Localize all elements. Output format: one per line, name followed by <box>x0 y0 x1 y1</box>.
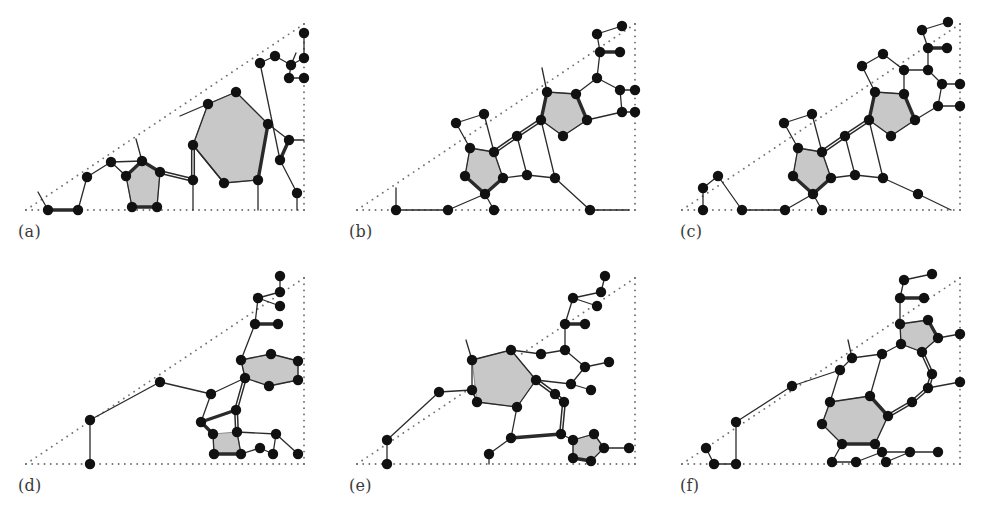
graph-edge-thin <box>484 114 494 152</box>
domain-right-edge-dot <box>959 48 961 50</box>
graph-vertex <box>489 205 499 215</box>
graph-vertex <box>592 73 602 83</box>
graph-vertex <box>253 175 263 185</box>
domain-baseline-dot <box>560 463 562 465</box>
graph-edge-thin <box>555 178 590 210</box>
domain-hypotenuse-dot <box>815 373 817 375</box>
domain-right-edge-dot <box>303 370 305 372</box>
domain-right-edge-dot <box>959 438 961 440</box>
domain-hypotenuse-dot <box>423 164 425 166</box>
graph-vertex <box>460 171 470 181</box>
graph-vertex <box>857 61 867 71</box>
graph-vertex <box>617 107 627 117</box>
domain-hypotenuse-dot <box>262 305 264 307</box>
graph-vertex <box>604 357 614 367</box>
domain-baseline-dot <box>798 463 800 465</box>
domain-right-edge-dot <box>634 141 636 143</box>
domain-baseline-dot <box>842 209 844 211</box>
domain-baseline-dot <box>947 463 949 465</box>
domain-right-edge-dot <box>303 457 305 459</box>
domain-hypotenuse-dot <box>387 188 389 190</box>
domain-baseline-dot <box>223 463 225 465</box>
graph-vertex <box>568 453 578 463</box>
domain-hypotenuse-dot <box>588 54 590 56</box>
domain-right-edge-dot <box>303 184 305 186</box>
domain-baseline-dot <box>700 463 702 465</box>
graph-vertex <box>793 143 803 153</box>
domain-hypotenuse-dot <box>531 346 533 348</box>
domain-baseline-dot <box>173 209 175 211</box>
domain-right-edge-dot <box>303 308 305 310</box>
domain-hypotenuse-dot <box>123 144 125 146</box>
domain-hypotenuse-dot <box>246 61 248 63</box>
graph-vertex <box>698 183 708 193</box>
domain-right-edge-dot <box>634 203 636 205</box>
domain-baseline-dot <box>179 209 181 211</box>
domain-baseline-dot <box>418 463 420 465</box>
domain-right-edge-dot <box>303 327 305 329</box>
domain-hypotenuse-dot <box>552 332 554 334</box>
domain-baseline-dot <box>87 209 89 211</box>
graph-vertex <box>599 443 609 453</box>
graph-edge-thin <box>736 386 792 422</box>
domain-baseline-dot <box>928 463 930 465</box>
domain-hypotenuse-dot <box>882 75 884 77</box>
domain-hypotenuse-dot <box>277 40 279 42</box>
domain-right-edge-dot <box>303 110 305 112</box>
domain-hypotenuse-dot <box>779 398 781 400</box>
domain-hypotenuse-dot <box>246 315 248 317</box>
panel-canvas-c <box>670 8 994 262</box>
domain-baseline-dot <box>603 463 605 465</box>
graph-vertex <box>299 28 309 38</box>
domain-right-edge-dot <box>634 314 636 316</box>
domain-right-edge-dot <box>959 128 961 130</box>
domain-right-edge-dot <box>303 141 305 143</box>
domain-hypotenuse-dot <box>402 178 404 180</box>
domain-right-edge-dot <box>959 166 961 168</box>
graph-vertex <box>937 79 947 89</box>
domain-hypotenuse-dot <box>583 311 585 313</box>
domain-right-edge-dot <box>634 190 636 192</box>
domain-right-edge-dot <box>959 209 961 211</box>
domain-baseline-dot <box>768 463 770 465</box>
domain-hypotenuse-dot <box>149 380 151 382</box>
graph-vertex <box>779 118 789 128</box>
domain-hypotenuse-dot <box>46 449 48 451</box>
domain-hypotenuse-dot <box>174 363 176 365</box>
domain-right-edge-dot <box>303 283 305 285</box>
domain-hypotenuse-dot <box>758 411 760 413</box>
domain-baseline-dot <box>467 209 469 211</box>
domain-hypotenuse-dot <box>459 394 461 396</box>
domain-right-edge-dot <box>959 308 961 310</box>
graph-vertex <box>840 131 850 141</box>
domain-baseline-dot <box>910 463 912 465</box>
graph-vertex <box>910 115 920 125</box>
graph-vertex <box>550 389 560 399</box>
domain-hypotenuse-dot <box>40 453 42 455</box>
domain-baseline-dot <box>510 463 512 465</box>
domain-hypotenuse-dot <box>686 206 688 208</box>
graph-vertex <box>284 73 294 83</box>
domain-baseline-dot <box>93 209 95 211</box>
domain-hypotenuse-dot <box>61 439 63 441</box>
domain-hypotenuse-dot <box>449 147 451 149</box>
domain-baseline-dot <box>393 463 395 465</box>
domain-right-edge-dot <box>634 457 636 459</box>
graph-vertex <box>73 205 83 215</box>
domain-baseline-dot <box>50 463 52 465</box>
domain-right-edge-dot <box>959 302 961 304</box>
domain-baseline-dot <box>523 463 525 465</box>
domain-right-edge-dot <box>959 358 961 360</box>
domain-hypotenuse-dot <box>288 33 290 35</box>
domain-right-edge-dot <box>634 320 636 322</box>
domain-baseline-dot <box>761 463 763 465</box>
domain-baseline-dot <box>529 209 531 211</box>
domain-right-edge-dot <box>303 382 305 384</box>
domain-hypotenuse-dot <box>190 99 192 101</box>
domain-baseline-dot <box>291 209 293 211</box>
domain-baseline-dot <box>375 209 377 211</box>
domain-right-edge-dot <box>634 426 636 428</box>
graph-edge-thin <box>90 382 160 420</box>
domain-hypotenuse-dot <box>226 329 228 331</box>
graph-vertex <box>536 115 546 125</box>
